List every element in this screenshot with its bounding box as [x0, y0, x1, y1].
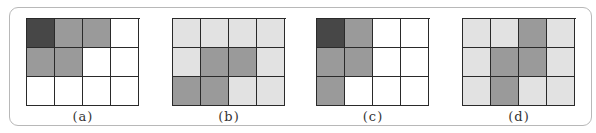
grid-cell-white [83, 77, 111, 106]
grid-cell-medium [317, 48, 345, 77]
grid-cell-light [547, 77, 575, 106]
grid-cell-light [229, 19, 257, 48]
grid-cell-white [401, 48, 429, 77]
grid-cell-medium [229, 48, 257, 77]
grid-cell-medium [345, 48, 373, 77]
grid-cell-light [463, 19, 491, 48]
grid-cell-light [173, 48, 201, 77]
grid-cell-white [373, 19, 401, 48]
grid-d [462, 18, 576, 106]
grid-cell-white [401, 19, 429, 48]
grid-cell-white [111, 48, 139, 77]
grid-cell-light [229, 77, 257, 106]
grid-cell-light [547, 19, 575, 48]
grid-cell-light [463, 48, 491, 77]
figure-a [26, 18, 140, 106]
grid-cell-medium [201, 48, 229, 77]
caption-c: (c) [316, 109, 430, 124]
grid-cell-dark [317, 19, 345, 48]
figure-c [316, 18, 430, 106]
grid-cell-light [257, 77, 285, 106]
grid-cell-light [173, 19, 201, 48]
grid-cell-medium [317, 77, 345, 106]
grid-cell-medium [201, 77, 229, 106]
grid-cell-light [257, 48, 285, 77]
grid-cell-medium [519, 48, 547, 77]
grid-cell-white [55, 77, 83, 106]
caption-b: (b) [172, 109, 286, 124]
figure-b [172, 18, 286, 106]
grid-cell-white [111, 77, 139, 106]
grid-cell-medium [491, 48, 519, 77]
grid-cell-medium [345, 19, 373, 48]
grid-cell-medium [27, 48, 55, 77]
grid-cell-light [201, 19, 229, 48]
grid-cell-medium [173, 77, 201, 106]
grid-cell-medium [519, 19, 547, 48]
caption-a: (a) [26, 109, 140, 124]
grid-b [172, 18, 286, 106]
grid-cell-white [373, 77, 401, 106]
grid-cell-white [345, 77, 373, 106]
grid-cell-medium [83, 19, 111, 48]
grid-cell-white [111, 19, 139, 48]
grid-cell-light [491, 19, 519, 48]
grid-a [26, 18, 140, 106]
grid-cell-light [257, 19, 285, 48]
grid-c [316, 18, 430, 106]
grid-cell-light [547, 48, 575, 77]
grid-cell-light [463, 77, 491, 106]
grid-cell-light [519, 77, 547, 106]
grid-cell-medium [491, 77, 519, 106]
grid-cell-medium [55, 48, 83, 77]
grid-cell-white [83, 48, 111, 77]
grid-cell-white [27, 77, 55, 106]
grid-cell-white [373, 48, 401, 77]
figure-d [462, 18, 576, 106]
grid-cell-dark [27, 19, 55, 48]
grid-cell-medium [55, 19, 83, 48]
caption-d: (d) [462, 109, 576, 124]
grid-cell-white [401, 77, 429, 106]
